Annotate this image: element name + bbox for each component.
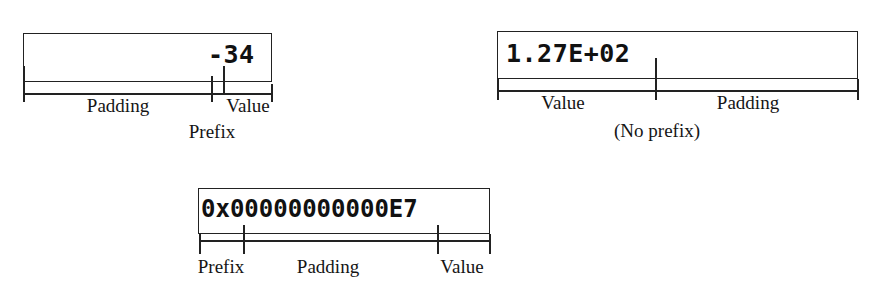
tick-right-edge-negative-decimal [271,84,273,102]
label-padding-hexadecimal: Padding [297,257,359,276]
label-prefix-hexadecimal: Prefix [198,257,244,276]
label-value-scientific-notation: Value [541,93,584,112]
label-no-prefix-note: (No prefix) [614,121,700,140]
label-padding-scientific-notation: Padding [717,93,779,112]
label-prefix-negative-decimal: Prefix [189,122,235,141]
tick-value-start-negative-decimal [223,66,225,93]
tick-value-end-scientific-notation [655,58,657,100]
field-value-hexadecimal: 0x00000000000E7 [201,197,418,221]
tick-prefix-end-hexadecimal [243,225,245,254]
label-value-negative-decimal: Value [226,96,269,115]
tick-left-edge-scientific-notation [497,79,499,100]
field-value-negative-decimal: -34 [208,42,255,67]
tick-left-edge-hexadecimal [199,234,201,254]
tick-right-edge-hexadecimal [489,234,491,254]
tick-left-edge-negative-decimal [23,66,25,102]
field-value-scientific-notation: 1.27E+02 [506,41,630,66]
label-padding-negative-decimal: Padding [87,96,149,115]
label-value-hexadecimal: Value [440,257,483,276]
tick-right-edge-scientific-notation [857,79,859,100]
tick-prefix-start-negative-decimal [211,76,213,102]
tick-value-start-hexadecimal [437,225,439,254]
